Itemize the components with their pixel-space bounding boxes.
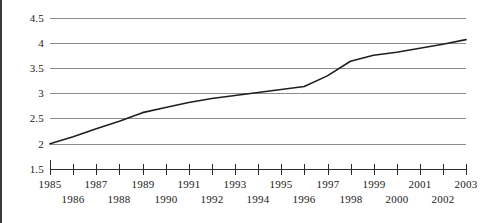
series-line-layer [0,0,494,223]
series-line-1 [50,40,466,144]
chart-figure: 4.5 4 3.5 3 2.5 2 1.5 1985 1987 1989 199… [0,0,494,223]
